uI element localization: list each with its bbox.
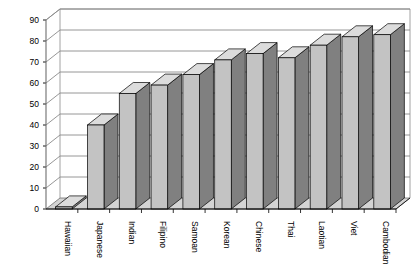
category-label: Filipino <box>158 221 168 248</box>
bar-side-face <box>199 64 213 209</box>
bar-side-face <box>168 74 182 209</box>
bar-side-face <box>327 34 341 209</box>
bar <box>151 74 182 209</box>
category-label: Thai <box>286 221 296 238</box>
y-tick-label: 40 <box>30 120 40 130</box>
bar-front-face <box>278 58 295 209</box>
y-tick-label: 50 <box>30 99 40 109</box>
bar <box>374 24 405 209</box>
bar <box>247 43 278 209</box>
bar <box>310 34 341 209</box>
bar-chart: 0102030405060708090 HawaiianJapaneseIndi… <box>0 0 419 280</box>
y-tick-label: 90 <box>30 15 40 25</box>
bar-front-face <box>215 60 232 209</box>
y-tick-label: 60 <box>30 78 40 88</box>
bar-front-face <box>374 35 391 209</box>
bar-side-face <box>295 47 309 209</box>
bar-side-face <box>104 114 118 209</box>
y-tick-label: 0 <box>34 204 39 214</box>
chart-canvas: 0102030405060708090 HawaiianJapaneseIndi… <box>0 0 419 280</box>
bar <box>183 64 214 209</box>
category-label: Samoan <box>190 221 200 253</box>
bar-side-face <box>231 49 245 209</box>
category-label: Japanese <box>95 221 105 258</box>
bar-front-face <box>151 85 168 209</box>
bar <box>215 49 246 209</box>
bar <box>278 47 309 209</box>
bar-side-face <box>390 24 404 209</box>
category-label: Viet <box>349 221 359 236</box>
category-label: Indian <box>127 221 137 244</box>
y-tick-label: 70 <box>30 57 40 67</box>
bar-side-face <box>359 26 373 209</box>
category-label: Laotian <box>317 221 327 249</box>
bar <box>119 83 150 210</box>
bar-front-face <box>342 37 359 209</box>
y-tick-label: 80 <box>30 36 40 46</box>
y-tick-label: 10 <box>30 183 40 193</box>
category-label: Cambodian <box>381 221 391 265</box>
category-label: Korean <box>222 221 232 249</box>
category-label: Chinese <box>254 221 264 252</box>
category-label: Hawaiian <box>63 221 73 256</box>
bar-front-face <box>310 45 327 209</box>
bar-front-face <box>183 75 200 209</box>
bar-side-face <box>263 43 277 209</box>
bar-front-face <box>87 125 104 209</box>
bar-front-face <box>247 54 264 209</box>
bar-front-face <box>119 94 136 210</box>
y-tick-label: 30 <box>30 141 40 151</box>
bar <box>87 114 118 209</box>
bar-side-face <box>136 83 150 210</box>
y-tick-label: 20 <box>30 162 40 172</box>
bar <box>342 26 373 209</box>
